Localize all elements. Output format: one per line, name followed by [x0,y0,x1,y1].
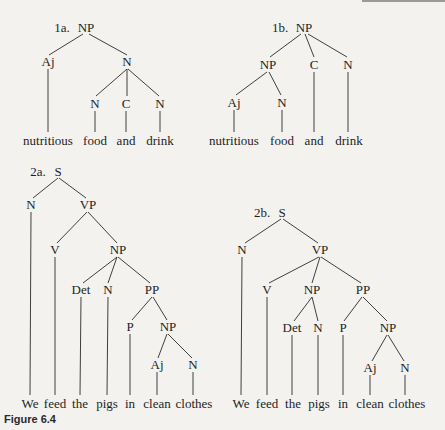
word: feed [256,397,278,411]
node-n: N [155,97,164,111]
node-det: Det [283,321,302,335]
word: We [22,397,39,411]
word: in [338,397,348,411]
node-p: P [339,321,346,335]
node-np: NP [380,321,397,335]
node-np-root: NP [296,21,313,35]
node-n: N [188,358,197,372]
node-aj: Aj [42,55,55,69]
word: pigs [308,397,330,411]
node-np-root: NP [78,21,95,35]
node-v: V [262,283,271,297]
node-np: NP [304,283,321,297]
node-n: N [90,97,99,111]
tree-edges [0,0,445,430]
tree-label: 2b. [254,206,270,220]
word: food [83,134,107,148]
node-p: P [126,320,133,334]
word: We [233,397,250,411]
word: pigs [96,397,118,411]
word: nutritious [23,134,73,148]
node-aj: Aj [364,361,377,375]
word: food [270,134,294,148]
node-vp: VP [80,198,97,212]
node-n: N [313,321,322,335]
word: in [125,397,135,411]
tree-label: 1b. [272,21,288,35]
node-aj: Aj [228,96,241,110]
node-n: N [26,198,35,212]
word: clothes [176,397,213,411]
word: and [117,134,136,148]
word: drink [146,134,173,148]
node-n: N [237,243,246,257]
word: clean [143,397,170,411]
node-n: N [277,96,286,110]
node-pp: PP [356,283,370,297]
figure-page: 1a. NP Aj N N C N nutritious food and dr… [0,0,445,430]
node-aj: Aj [151,358,164,372]
node-v: V [50,243,59,257]
word: clothes [389,397,426,411]
node-np: NP [260,58,277,72]
tree-label: 2a. [30,165,46,179]
node-n: N [103,283,112,297]
node-pp: PP [145,283,159,297]
node-np: NP [110,243,127,257]
node-s-root: S [278,206,285,220]
figure-caption: Figure 6.4 [4,413,56,425]
word: the [285,397,301,411]
node-s-root: S [54,165,61,179]
node-n: N [400,361,409,375]
node-det: Det [72,283,91,297]
node-c: C [310,58,319,72]
word: feed [44,397,66,411]
node-np: NP [160,320,177,334]
node-vp: VP [312,243,329,257]
node-c: C [122,97,131,111]
word: clean [356,397,383,411]
word: the [72,397,88,411]
word: drink [335,134,362,148]
tree-label: 1a. [54,21,70,35]
node-n: N [343,58,352,72]
node-n: N [122,55,131,69]
word: and [305,134,324,148]
word: nutritious [209,134,259,148]
